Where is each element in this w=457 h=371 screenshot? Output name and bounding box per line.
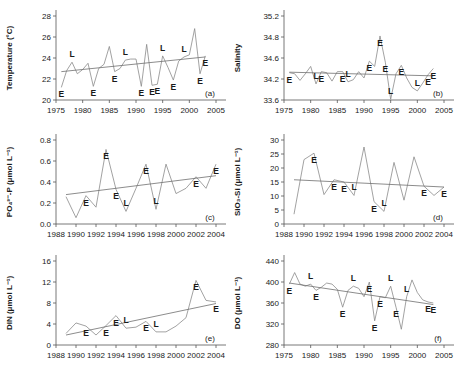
y-axis-ticks-f: 280320360400440 [266, 257, 284, 350]
x-axis-ticks-b: 1975198019851990199520002005 [275, 100, 453, 115]
y-tick-label: 15 [270, 178, 279, 187]
event-label-lanina: L [415, 78, 420, 88]
y-tick-label: 30 [270, 136, 279, 145]
y-tick-label: 34.8 [263, 33, 279, 42]
x-tick-label: 2000 [408, 106, 426, 115]
panel-a: 20222426281975198019851990199520002005EL… [0, 2, 228, 125]
panel-tag-e: (e) [205, 334, 215, 343]
y-tick-label: 12 [42, 278, 51, 287]
event-label-elnino: E [377, 38, 383, 48]
y-tick-label: 16 [42, 257, 51, 266]
trend-line-f [289, 283, 433, 305]
axes-c [56, 134, 226, 224]
event-labels-c: EEELELEE [83, 151, 219, 208]
x-tick-label: 1975 [275, 106, 293, 115]
x-tick-label: 2005 [435, 351, 453, 360]
event-label-elnino: E [143, 166, 149, 176]
y-tick-label: 28 [42, 12, 51, 21]
y-axis-title-f: DO (μmol L⁻¹) [233, 276, 242, 329]
x-tick-label: 1990 [295, 230, 313, 239]
y-tick-label: 0 [47, 341, 52, 350]
plot-e: 0481216198819901992199419961998200020022… [0, 247, 228, 370]
x-tick-label: 1990 [127, 106, 145, 115]
y-axis-title-c: PO₄³⁻-P (μmol L⁻¹) [5, 147, 14, 218]
plot-a: 20222426281975198019851990199520002005EL… [0, 2, 228, 125]
y-tick-label: 0.0 [40, 220, 52, 229]
event-labels-e: EEELELEE [83, 282, 219, 338]
x-tick-label: 1996 [127, 230, 145, 239]
event-label-elnino: E [83, 328, 89, 338]
event-label-elnino: E [193, 179, 199, 189]
event-label-lanina: L [123, 47, 128, 57]
x-tick-label: 2004 [207, 230, 225, 239]
y-tick-label: 22 [42, 75, 51, 84]
event-label-elnino: E [286, 75, 292, 85]
event-label-lanina: L [351, 182, 356, 192]
y-axis-title-b: Salinity [233, 43, 242, 72]
x-tick-label: 1975 [275, 351, 293, 360]
y-tick-label: 0.4 [40, 178, 52, 187]
event-label-elnino: E [138, 88, 144, 98]
event-label-elnino: E [58, 89, 64, 99]
y-tick-label: 24 [42, 54, 51, 63]
x-tick-label: 1994 [107, 351, 125, 360]
event-label-lanina: L [381, 198, 386, 208]
panel-e: 0481216198819901992199419961998200020022… [0, 247, 228, 370]
y-tick-label: 20 [270, 164, 279, 173]
x-tick-label: 1992 [87, 230, 105, 239]
event-label-elnino: E [113, 191, 119, 201]
x-tick-label: 1995 [382, 106, 400, 115]
x-tick-label: 1985 [328, 106, 346, 115]
x-axis-ticks-e: 198819901992199419961998200020022004 [47, 345, 225, 360]
plot-b: 33.634.234.634.835.219751980198519901995… [228, 2, 456, 125]
y-tick-label: 0.2 [40, 199, 52, 208]
x-tick-label: 2000 [395, 230, 413, 239]
figure-container: 20222426281975198019851990199520002005EL… [0, 0, 457, 371]
event-label-elnino: E [430, 71, 436, 81]
x-tick-label: 1996 [355, 230, 373, 239]
event-label-elnino: E [112, 74, 118, 84]
event-label-lanina: L [153, 319, 158, 329]
event-label-elnino: E [340, 309, 346, 319]
y-tick-label: 0.8 [40, 136, 52, 145]
event-label-lanina: L [153, 196, 158, 206]
axes-f [284, 255, 454, 345]
event-label-elnino: E [90, 88, 96, 98]
y-tick-label: 8 [47, 299, 52, 308]
panel-tag-c: (c) [205, 213, 215, 222]
x-tick-label: 1988 [47, 230, 65, 239]
event-label-elnino: E [366, 63, 372, 73]
trend-line-d [294, 180, 444, 187]
event-label-elnino: E [421, 188, 427, 198]
plot-c: 0.00.20.40.60.81988199019921994199619982… [0, 126, 228, 249]
event-label-elnino: E [393, 309, 399, 319]
event-label-elnino: E [286, 286, 292, 296]
x-tick-label: 1998 [375, 230, 393, 239]
panel-tag-d: (d) [433, 213, 443, 222]
x-tick-label: 1990 [67, 230, 85, 239]
event-label-elnino: E [83, 198, 89, 208]
event-label-lanina: L [404, 284, 409, 294]
panel-d: 0510152025301988199019921994199619982000… [228, 126, 456, 249]
y-tick-label: 5 [275, 206, 280, 215]
y-tick-label: 34.6 [263, 54, 279, 63]
x-tick-label: 1995 [154, 106, 172, 115]
y-tick-label: 360 [266, 299, 280, 308]
axes-d [284, 134, 454, 224]
x-tick-label: 2002 [187, 351, 205, 360]
event-label-elnino: E [103, 328, 109, 338]
y-tick-label: 440 [266, 257, 280, 266]
x-tick-label: 1990 [67, 351, 85, 360]
event-label-elnino: E [441, 189, 447, 199]
event-label-elnino: E [398, 67, 404, 77]
y-tick-label: 0.6 [40, 157, 52, 166]
event-label-elnino: E [202, 58, 208, 68]
event-label-elnino: E [154, 86, 160, 96]
event-label-lanina: L [69, 49, 74, 59]
event-label-elnino: E [213, 304, 219, 314]
y-axis-ticks-b: 33.634.234.634.835.2 [263, 12, 284, 105]
y-axis-ticks-d: 051015202530 [270, 136, 284, 229]
y-tick-label: 26 [42, 33, 51, 42]
event-label-elnino: E [382, 64, 388, 74]
x-tick-label: 1980 [74, 106, 92, 115]
